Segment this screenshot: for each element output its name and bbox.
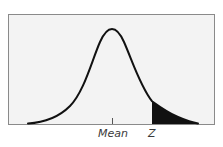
plot-frame xyxy=(9,15,215,125)
z-label: Z xyxy=(148,128,156,139)
mean-label: Mean xyxy=(98,128,128,139)
normal-distribution-diagram xyxy=(0,0,223,147)
